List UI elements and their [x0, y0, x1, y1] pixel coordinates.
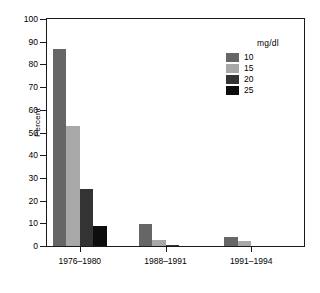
x-tick-mark: [251, 247, 252, 252]
x-tick-label: 1976–1980: [59, 256, 102, 266]
bar: [166, 245, 180, 246]
y-tick-mark: [40, 178, 46, 179]
y-tick-mark: [40, 110, 46, 111]
x-tick-mark: [166, 247, 167, 252]
legend-label: 10: [244, 53, 253, 62]
legend-entry: 25: [226, 86, 296, 95]
y-tick-mark: [40, 155, 46, 156]
y-tick-label: 70: [2, 83, 38, 92]
legend-swatch: [226, 53, 239, 62]
legend-label: 25: [244, 86, 253, 95]
legend-entry: 20: [226, 75, 296, 84]
y-tick-label: 100: [2, 15, 38, 24]
y-tick-mark: [40, 201, 46, 202]
bar: [93, 226, 107, 246]
bar: [66, 126, 80, 246]
legend-label: 20: [244, 75, 253, 84]
y-tick-mark: [40, 246, 46, 247]
y-tick-label: 50: [2, 129, 38, 138]
y-tick-mark: [40, 223, 46, 224]
y-tick-mark: [40, 19, 46, 20]
y-tick-label: 90: [2, 38, 38, 47]
bar: [238, 241, 252, 246]
legend-swatch: [226, 64, 239, 73]
y-tick-label: 80: [2, 60, 38, 69]
legend-swatch: [226, 75, 239, 84]
y-tick-mark: [40, 64, 46, 65]
x-tick-label: 1988–1991: [144, 256, 187, 266]
x-tick-mark: [80, 247, 81, 252]
y-tick-label: 10: [2, 219, 38, 228]
y-tick-label: 30: [2, 174, 38, 183]
bar: [53, 49, 67, 246]
legend-entry: 15: [226, 64, 296, 73]
legend-entry: 10: [226, 53, 296, 62]
bar: [139, 224, 153, 246]
y-tick-label: 40: [2, 151, 38, 160]
y-tick-mark: [40, 133, 46, 134]
legend-title: mg/dl: [240, 38, 296, 48]
x-tick-label: 1991–1994: [230, 256, 273, 266]
y-tick-label: 0: [2, 242, 38, 251]
legend-swatch: [226, 86, 239, 95]
legend: mg/dl 10152025: [226, 38, 296, 97]
bar: [224, 237, 238, 246]
legend-label: 15: [244, 64, 253, 73]
y-axis-tick-labels: 0102030405060708090100: [0, 0, 38, 293]
y-tick-mark: [40, 87, 46, 88]
bar: [152, 240, 166, 246]
legend-entries: 10152025: [226, 53, 296, 95]
y-tick-mark: [40, 42, 46, 43]
y-tick-label: 20: [2, 197, 38, 206]
y-tick-label: 60: [2, 106, 38, 115]
bar: [80, 189, 94, 246]
bar-chart: Percent 0102030405060708090100 mg/dl 101…: [0, 0, 320, 293]
